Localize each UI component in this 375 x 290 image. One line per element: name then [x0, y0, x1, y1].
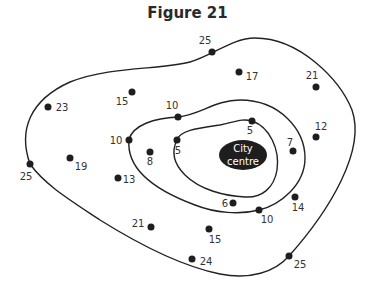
svg-text:23: 23 [56, 102, 69, 113]
city-centre-label-line1: City [233, 143, 253, 154]
point-6: 6 [222, 198, 237, 209]
svg-text:24: 24 [200, 256, 213, 267]
svg-text:5: 5 [175, 145, 181, 156]
point-10-bottom: 10 [256, 207, 274, 226]
point-25-bottom: 25 [286, 253, 307, 271]
svg-text:15: 15 [116, 96, 129, 107]
svg-text:10: 10 [166, 100, 179, 111]
point-14: 14 [292, 194, 305, 214]
city-centre-label-line2: centre [227, 156, 259, 167]
point-21-right: 21 [306, 70, 320, 91]
svg-text:25: 25 [294, 259, 307, 270]
svg-text:8: 8 [147, 156, 153, 167]
svg-text:25: 25 [199, 35, 212, 46]
point-21-bottom: 21 [132, 218, 155, 231]
isoline-map: City centre 25 17 21 23 15 10 5 12 10 5 [0, 0, 375, 290]
svg-text:10: 10 [261, 214, 274, 225]
city-centre-marker: City centre [219, 140, 267, 170]
point-12: 12 [313, 121, 328, 141]
point-25-left: 25 [20, 161, 34, 183]
contour-10 [129, 100, 305, 213]
svg-text:19: 19 [75, 161, 88, 172]
point-25-top: 25 [199, 35, 216, 56]
svg-text:14: 14 [292, 202, 305, 213]
svg-text:10: 10 [110, 135, 123, 146]
svg-text:21: 21 [132, 218, 145, 229]
svg-text:15: 15 [209, 234, 222, 245]
point-15-upper: 15 [116, 89, 136, 108]
svg-text:13: 13 [123, 174, 136, 185]
svg-text:17: 17 [246, 71, 259, 82]
svg-text:25: 25 [20, 171, 33, 182]
point-13: 13 [115, 174, 136, 185]
point-19: 19 [67, 155, 88, 173]
point-23: 23 [45, 102, 69, 113]
point-7: 7 [287, 137, 297, 155]
point-15-bottom: 15 [206, 226, 222, 246]
svg-text:5: 5 [247, 125, 253, 136]
point-17: 17 [236, 69, 259, 83]
svg-text:21: 21 [306, 70, 319, 81]
point-8: 8 [147, 149, 154, 168]
svg-text:6: 6 [222, 198, 228, 209]
svg-text:12: 12 [315, 121, 328, 132]
svg-text:7: 7 [287, 137, 293, 148]
point-24: 24 [189, 256, 213, 268]
point-5-left: 5 [174, 137, 182, 157]
